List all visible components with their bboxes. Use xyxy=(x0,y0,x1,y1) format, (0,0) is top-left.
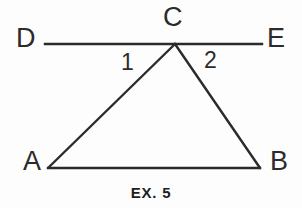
vertex-label-a: A xyxy=(23,148,41,175)
figure-caption: EX. 5 xyxy=(0,184,302,201)
vertex-label-c: C xyxy=(163,4,183,31)
geometry-figure: D E C A B 1 2 EX. 5 xyxy=(0,0,302,208)
vertex-label-b: B xyxy=(270,148,288,175)
vertex-label-e: E xyxy=(267,25,285,52)
figure-drawing xyxy=(0,0,302,208)
angle-label-1: 1 xyxy=(121,51,134,74)
vertex-point-C xyxy=(173,42,176,45)
triangle-side-AC xyxy=(48,44,175,168)
angle-label-2: 2 xyxy=(204,49,217,72)
triangle-side-CB xyxy=(175,44,260,168)
vertex-label-d: D xyxy=(16,25,36,52)
